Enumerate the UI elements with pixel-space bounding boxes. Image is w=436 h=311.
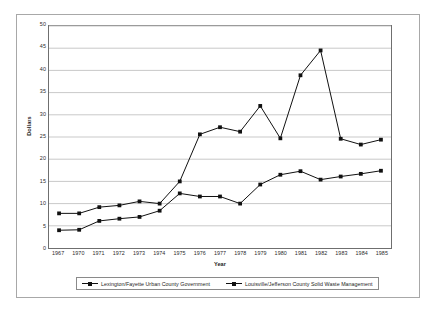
x-tick-label: 1985 (366, 251, 398, 257)
line-chart-figure: Dollars 05101520253035404550 19671970197… (0, 0, 436, 311)
y-tick-label: 15 (20, 179, 46, 184)
chart-legend: Lexington/Fayette Urban County Governmen… (76, 277, 379, 290)
y-tick-label: 20 (20, 157, 46, 162)
y-tick-label: 10 (20, 201, 46, 206)
y-tick-label: 45 (20, 45, 46, 50)
legend-item-label: Louisville/Jefferson County Solid Waste … (245, 281, 373, 287)
x-axis-title: Year (48, 261, 392, 267)
legend-marker-icon (82, 280, 98, 287)
series-lines-and-markers (49, 26, 391, 248)
y-tick-label: 30 (20, 112, 46, 117)
y-axis-tick-labels: 05101520253035404550 (16, 25, 46, 249)
y-tick-label: 35 (20, 89, 46, 94)
legend-item-lexington-fayette: Lexington/Fayette Urban County Governmen… (82, 280, 210, 287)
legend-item-label: Lexington/Fayette Urban County Governmen… (101, 281, 210, 287)
legend-item-louisville-jefferson: Louisville/Jefferson County Solid Waste … (226, 280, 373, 287)
plot-area (48, 25, 392, 249)
y-tick-label: 50 (20, 22, 46, 27)
y-tick-label: 5 (20, 224, 46, 229)
y-tick-label: 25 (20, 134, 46, 139)
legend-marker-icon (226, 280, 242, 287)
y-tick-label: 40 (20, 67, 46, 72)
